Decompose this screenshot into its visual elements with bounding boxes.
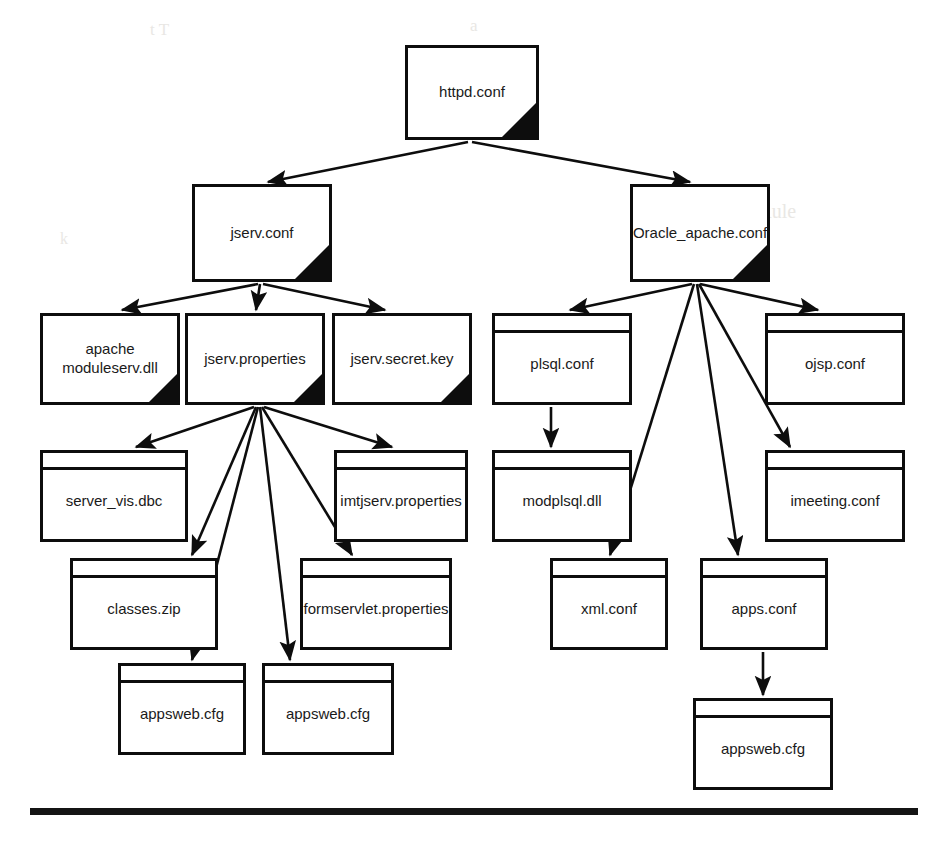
node-header-band [303, 561, 449, 578]
node-header-band [553, 561, 665, 578]
node-header-band [43, 453, 185, 470]
node-label: imeeting.conf [786, 492, 883, 511]
node-label: jserv.conf [226, 224, 297, 243]
node-appsweb3[interactable]: appsweb.cfg [693, 698, 833, 790]
node-apachemod[interactable]: apache moduleserv.dll [40, 313, 180, 405]
node-appsconf[interactable]: apps.conf [700, 558, 828, 650]
node-label: apache moduleserv.dll [58, 340, 162, 378]
node-header-band [696, 701, 830, 718]
node-appsweb1[interactable]: appsweb.cfg [118, 663, 246, 755]
node-appsweb2[interactable]: appsweb.cfg [262, 663, 394, 755]
node-label: modplsql.dll [518, 492, 605, 511]
dog-ear-corner-icon [441, 374, 469, 402]
node-label: apps.conf [727, 600, 800, 619]
dog-ear-corner-icon [502, 103, 536, 137]
node-header-band [337, 453, 465, 470]
node-label: appsweb.cfg [282, 705, 374, 724]
edge-jserv-to-jservsecret [263, 284, 385, 310]
dog-ear-corner-icon [294, 374, 322, 402]
node-httpd[interactable]: httpd.conf [405, 45, 539, 140]
node-header-band [495, 316, 629, 333]
node-oracle[interactable]: Oracle_apache.conf [630, 184, 770, 282]
node-label: imtjserv.properties [336, 492, 465, 511]
edge-jservprops-to-servervis [136, 407, 254, 447]
node-header-band [768, 316, 902, 333]
footer-rule [30, 808, 918, 815]
node-header-band [495, 453, 629, 470]
node-header-band [265, 666, 391, 683]
node-header-band [703, 561, 825, 578]
edge-oracle-to-ojsp [700, 284, 818, 310]
edge-jserv-to-jservprops [256, 284, 260, 310]
node-imtjserv[interactable]: imtjserv.properties [334, 450, 468, 542]
dog-ear-corner-icon [733, 245, 767, 279]
node-label: server_vis.dbc [62, 492, 167, 511]
dog-ear-corner-icon [295, 245, 329, 279]
node-jservprops[interactable]: jserv.properties [185, 313, 325, 405]
node-label: classes.zip [103, 600, 184, 619]
node-label: appsweb.cfg [717, 740, 809, 759]
node-jservsecret[interactable]: jserv.secret.key [332, 313, 472, 405]
node-classeszip[interactable]: classes.zip [70, 558, 218, 650]
node-label: xml.conf [577, 600, 641, 619]
node-label: jserv.secret.key [346, 350, 457, 369]
node-label: plsql.conf [526, 355, 597, 374]
node-imeeting[interactable]: imeeting.conf [765, 450, 905, 542]
node-plsql[interactable]: plsql.conf [492, 313, 632, 405]
node-servervis[interactable]: server_vis.dbc [40, 450, 188, 542]
node-header-band [768, 453, 902, 470]
edge-oracle-to-plsql [570, 284, 692, 310]
node-modplsql[interactable]: modplsql.dll [492, 450, 632, 542]
dog-ear-corner-icon [149, 374, 177, 402]
node-label: Oracle_apache.conf [629, 224, 771, 243]
node-formservlet[interactable]: formservlet.properties [300, 558, 452, 650]
edge-oracle-to-appsconf [697, 284, 738, 555]
node-label: httpd.conf [435, 83, 509, 102]
diagram-canvas: t TaGeneral Rulek httpd.confjserv.confOr… [0, 0, 945, 843]
node-jserv[interactable]: jserv.conf [192, 184, 332, 282]
node-header-band [73, 561, 215, 578]
edge-jserv-to-apachemod [122, 284, 258, 310]
node-xmlconf[interactable]: xml.conf [550, 558, 668, 650]
node-ojsp[interactable]: ojsp.conf [765, 313, 905, 405]
edge-httpd-to-oracle [472, 142, 690, 182]
node-label: jserv.properties [200, 350, 309, 369]
edge-httpd-to-jserv [268, 142, 468, 182]
node-label: appsweb.cfg [136, 705, 228, 724]
node-label: formservlet.properties [299, 600, 452, 619]
node-label: ojsp.conf [801, 355, 869, 374]
node-header-band [121, 666, 243, 683]
